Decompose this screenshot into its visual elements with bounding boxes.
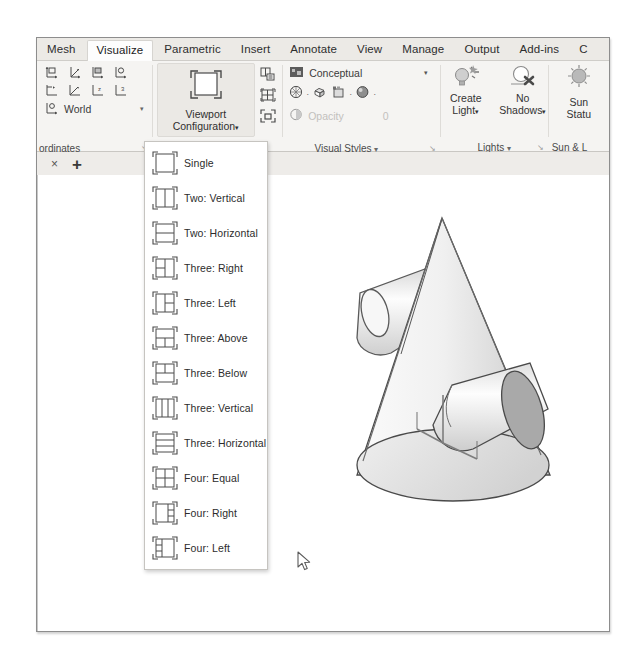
- ucs-named-icon[interactable]: 3: [113, 83, 129, 98]
- layout-single-icon: [152, 151, 178, 175]
- layout-four-right-icon: [152, 501, 178, 525]
- menu-item-label: Three: Vertical: [184, 402, 253, 414]
- xray-icon[interactable]: [289, 85, 303, 103]
- viewport-configuration-menu[interactable]: Single Two: Vertical: [144, 141, 268, 570]
- menu-item-label: Three: Left: [184, 297, 236, 309]
- ribbon-tab-manage[interactable]: Manage: [393, 40, 453, 59]
- menu-item-label: Single: [184, 157, 214, 169]
- svg-text:z: z: [98, 86, 101, 92]
- ucs-world-dropdown[interactable]: World ▾: [41, 101, 150, 116]
- layout-three-above-icon: [152, 326, 178, 350]
- ribbon-tab-strip: Mesh Visualize Parametric Insert Annotat…: [37, 38, 609, 61]
- ribbon-tab-view[interactable]: View: [348, 40, 391, 59]
- menu-item-label: Three: Below: [184, 367, 247, 379]
- chevron-down-icon[interactable]: ▾: [140, 105, 144, 113]
- mouse-cursor: [297, 551, 313, 573]
- join-viewports-icon[interactable]: [259, 108, 279, 126]
- ribbon-tab-insert[interactable]: Insert: [232, 40, 279, 59]
- no-shadows-label-1: No: [516, 92, 529, 104]
- no-shadows-button[interactable]: No Shadows▾: [499, 64, 546, 118]
- shade-sphere-icon[interactable]: [355, 85, 370, 103]
- chevron-down-icon[interactable]: ▾: [235, 124, 239, 131]
- menu-item-two-vertical[interactable]: Two: Vertical: [145, 180, 267, 215]
- ucs-icon[interactable]: [44, 65, 60, 80]
- menu-item-label: Four: Left: [184, 542, 230, 554]
- menu-item-four-right[interactable]: Four: Right: [145, 495, 267, 530]
- visual-style-selector[interactable]: Conceptual ▾: [289, 65, 440, 80]
- no-shadows-icon: [499, 64, 546, 92]
- opacity-value: 0: [383, 110, 389, 122]
- layout-three-below-icon: [152, 361, 178, 385]
- ucs-origin-icon[interactable]: [44, 83, 60, 98]
- sun-status-icon: [563, 78, 595, 95]
- menu-item-three-horizontal[interactable]: Three: Horizontal: [145, 425, 267, 460]
- ucs-3point-icon[interactable]: [67, 65, 83, 80]
- chevron-down-icon[interactable]: ▾: [542, 108, 546, 115]
- sun-status-label-1: Sun: [569, 96, 588, 108]
- create-light-label-2: Light: [452, 104, 475, 116]
- create-light-button[interactable]: Create Light▾: [442, 64, 489, 118]
- edge-overlay-icon[interactable]: [331, 85, 346, 103]
- panel-sun-and-location: Sun Statu Sun & L: [549, 61, 609, 154]
- chevron-down-icon[interactable]: ▾: [424, 69, 428, 77]
- ribbon-tab-addins[interactable]: Add-ins: [511, 40, 569, 59]
- viewport-single-icon: [188, 69, 224, 105]
- menu-item-three-right[interactable]: Three: Right: [145, 250, 267, 285]
- visual-style-current: Conceptual: [309, 67, 362, 79]
- layout-three-vertical-icon: [152, 396, 178, 420]
- ribbon-tab-annotate[interactable]: Annotate: [281, 40, 346, 59]
- menu-item-label: Three: Above: [184, 332, 248, 344]
- viewport-configuration-button[interactable]: Viewport Configuration▾: [157, 63, 255, 137]
- ucs-world-icon: [44, 101, 60, 116]
- ribbon-tab-visualize[interactable]: Visualize: [87, 40, 154, 61]
- ribbon-tab-mesh[interactable]: Mesh: [38, 40, 85, 59]
- chevron-down-icon[interactable]: ·: [306, 89, 309, 99]
- opacity-control: Opacity 0: [289, 108, 440, 123]
- menu-item-label: Four: Equal: [184, 472, 239, 484]
- menu-item-two-horizontal[interactable]: Two: Horizontal: [145, 215, 267, 250]
- menu-item-label: Four: Right: [184, 507, 237, 519]
- layout-four-equal-icon: [152, 466, 178, 490]
- ucs-z-axis-icon[interactable]: z: [90, 83, 106, 98]
- lights-button-row: Create Light▾ No Shadows▾: [441, 64, 548, 118]
- new-tab-icon[interactable]: +: [72, 156, 82, 173]
- panel-dialog-launcher-lights[interactable]: ↘: [537, 143, 544, 152]
- menu-item-three-below[interactable]: Three: Below: [145, 355, 267, 390]
- menu-item-single[interactable]: Single: [145, 145, 267, 180]
- chevron-down-icon[interactable]: ·: [349, 89, 352, 99]
- menu-item-three-vertical[interactable]: Three: Vertical: [145, 390, 267, 425]
- menu-item-label: Three: Right: [184, 262, 243, 274]
- restore-viewports-icon[interactable]: [259, 87, 279, 105]
- cone-with-two-cylinders-3d-model: [305, 203, 605, 523]
- chevron-down-icon[interactable]: ·: [373, 89, 376, 99]
- chevron-down-icon[interactable]: ▾: [475, 108, 479, 115]
- menu-item-four-left[interactable]: Four: Left: [145, 530, 267, 565]
- ucs-face-icon[interactable]: [90, 65, 106, 80]
- application-window: Mesh Visualize Parametric Insert Annotat…: [36, 37, 610, 632]
- layout-three-right-icon: [152, 256, 178, 280]
- close-tab-icon[interactable]: ×: [51, 157, 58, 171]
- panel-coordinates: z 3 World ▾ ordinates ↘: [37, 61, 152, 155]
- viewport-configuration-label: Viewport Configuration▾: [173, 108, 239, 134]
- layout-four-left-icon: [152, 536, 178, 560]
- ribbon-tab-output[interactable]: Output: [455, 40, 508, 59]
- ribbon-tab-collaborate[interactable]: C: [570, 40, 596, 59]
- shaded-box-icon[interactable]: [312, 85, 328, 103]
- drawing-canvas[interactable]: [37, 175, 609, 631]
- ucs-tool-row-1: [41, 65, 150, 80]
- menu-item-four-equal[interactable]: Four: Equal: [145, 460, 267, 495]
- ucs-object-icon[interactable]: [113, 65, 129, 80]
- opacity-label: Opacity: [308, 110, 344, 122]
- menu-item-three-left[interactable]: Three: Left: [145, 285, 267, 320]
- named-viewports-icon[interactable]: [259, 66, 279, 84]
- layout-three-left-icon: [152, 291, 178, 315]
- opacity-icon: [289, 108, 303, 123]
- menu-item-label: Two: Horizontal: [184, 227, 258, 239]
- menu-item-label: Two: Vertical: [184, 192, 245, 204]
- no-shadows-label-2: Shadows: [499, 104, 542, 116]
- ucs-view-icon[interactable]: [67, 83, 83, 98]
- menu-item-three-above[interactable]: Three: Above: [145, 320, 267, 355]
- layout-two-horizontal-icon: [152, 221, 178, 245]
- ribbon-tab-parametric[interactable]: Parametric: [155, 40, 230, 59]
- file-tab-bar: × +: [37, 152, 609, 177]
